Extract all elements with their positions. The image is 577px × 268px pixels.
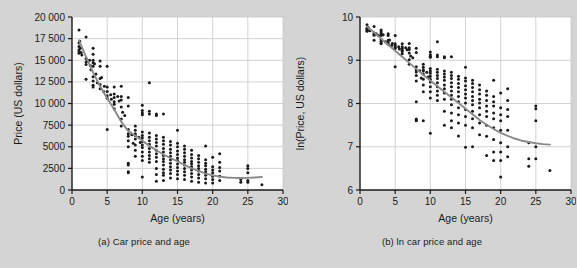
data-point <box>190 157 193 160</box>
data-point <box>429 51 432 54</box>
data-point <box>148 131 151 134</box>
data-point <box>204 168 207 171</box>
data-point <box>492 117 495 120</box>
data-point <box>155 160 158 163</box>
data-point <box>113 100 116 103</box>
data-point <box>464 102 467 105</box>
data-point <box>176 142 179 145</box>
y-tick-label: 15 000 <box>34 55 65 66</box>
data-point <box>134 144 137 147</box>
data-point <box>183 155 186 158</box>
x-tick-label: 5 <box>392 196 398 207</box>
data-point <box>450 89 453 92</box>
data-point <box>176 153 179 156</box>
data-point <box>80 51 83 54</box>
data-point <box>506 87 509 90</box>
data-point <box>408 42 411 45</box>
data-point <box>110 98 113 101</box>
data-point <box>478 121 481 124</box>
data-point <box>443 56 446 59</box>
data-point <box>373 39 376 42</box>
data-point <box>93 62 96 65</box>
data-point <box>457 134 460 137</box>
x-tick-label: 10 <box>137 196 149 207</box>
data-point <box>534 157 537 160</box>
data-point <box>197 164 200 167</box>
data-point <box>155 137 158 140</box>
data-point <box>155 173 158 176</box>
x-tick-label: 30 <box>565 196 576 207</box>
data-point <box>218 161 221 164</box>
x-tick-label: 20 <box>495 196 507 207</box>
data-point <box>141 109 144 112</box>
data-point <box>100 76 103 79</box>
data-point <box>162 147 165 150</box>
y-axis-label: Price (US dollars) <box>12 62 24 144</box>
y-tick-label: 17 500 <box>34 33 65 44</box>
data-point <box>190 149 193 152</box>
y-tick-label: 10 000 <box>34 98 65 109</box>
data-point <box>450 119 453 122</box>
data-point <box>155 144 158 147</box>
data-point <box>471 145 474 148</box>
y-tick-label: 7500 <box>43 120 66 131</box>
data-point <box>478 102 481 105</box>
data-point <box>415 100 418 103</box>
data-point <box>169 169 172 172</box>
data-point <box>394 65 397 68</box>
data-point <box>492 105 495 108</box>
data-point <box>176 177 179 180</box>
data-point <box>218 152 221 155</box>
data-point <box>106 128 109 131</box>
data-point <box>141 134 144 137</box>
data-point <box>80 54 83 57</box>
data-point <box>127 96 130 99</box>
data-point <box>155 114 158 117</box>
data-point <box>103 85 106 88</box>
data-point <box>408 48 411 51</box>
data-point <box>134 124 137 127</box>
data-point <box>162 139 165 142</box>
data-point <box>176 145 179 148</box>
data-point <box>155 167 158 170</box>
data-point <box>246 181 249 184</box>
y-tick-label: 6 <box>347 185 353 196</box>
data-point <box>239 181 242 184</box>
data-point <box>436 55 439 58</box>
data-point <box>527 157 530 160</box>
data-point <box>183 174 186 177</box>
data-point <box>99 60 102 63</box>
data-point <box>197 173 200 176</box>
data-point <box>471 79 474 82</box>
data-point <box>534 119 537 122</box>
data-point <box>492 95 495 98</box>
data-point <box>169 165 172 168</box>
data-point <box>148 154 151 157</box>
data-point <box>429 67 432 70</box>
y-tick-label: 8 <box>347 98 353 109</box>
data-point <box>92 59 95 62</box>
data-point <box>457 75 460 78</box>
data-point <box>113 103 116 106</box>
data-point <box>401 42 404 45</box>
data-point <box>92 53 95 56</box>
data-point <box>436 94 439 97</box>
data-point <box>134 149 137 152</box>
y-axis: 025005000750010 00012 50015 00017 50020 … <box>34 12 72 196</box>
data-point <box>499 92 502 95</box>
data-point <box>155 152 158 155</box>
data-point <box>106 65 109 68</box>
data-point <box>457 90 460 93</box>
data-point <box>450 85 453 88</box>
caption-a: (a) Car price and age <box>0 236 288 247</box>
data-point <box>183 144 186 147</box>
data-point <box>211 169 214 172</box>
data-point <box>492 79 495 82</box>
data-point <box>109 93 112 96</box>
data-point <box>218 179 221 182</box>
data-point <box>443 83 446 86</box>
data-point <box>443 124 446 127</box>
data-point <box>422 63 425 66</box>
data-point <box>120 105 123 108</box>
data-point <box>506 145 509 148</box>
